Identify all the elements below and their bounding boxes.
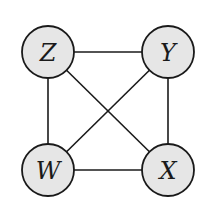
node-z: Z: [22, 26, 74, 78]
node-x: X: [142, 144, 194, 196]
node-z-label: Z: [39, 39, 58, 67]
node-w-label: W: [36, 157, 63, 185]
node-y: Y: [142, 26, 194, 78]
node-w: W: [22, 144, 74, 196]
node-x-label: X: [157, 157, 177, 185]
graph-diagram: Z Y W X: [0, 0, 213, 216]
node-y-label: Y: [160, 39, 178, 67]
